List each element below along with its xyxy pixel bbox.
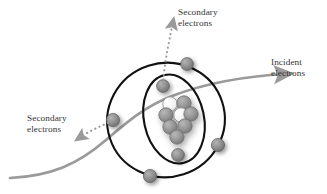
electron-outer-bottom <box>143 169 156 182</box>
nucleon <box>170 130 184 144</box>
label-secondary-electrons-left: Secondary electrons <box>27 113 67 135</box>
electron-outer-right <box>211 138 224 151</box>
electron-outer-top-right <box>181 58 194 71</box>
label-incident-electrons: Incident electrons <box>271 57 305 79</box>
label-line-1: Secondary <box>178 7 218 18</box>
label-line-1: Incident <box>271 57 305 68</box>
label-line-2: electrons <box>178 18 218 29</box>
electron-outer-left <box>106 113 119 126</box>
label-line-2: electrons <box>27 124 67 135</box>
electron-inner-top <box>157 80 170 93</box>
label-line-2: electrons <box>271 68 305 79</box>
electron-inner-bottom <box>172 149 185 162</box>
secondary-electron-arrow-left <box>79 123 108 138</box>
nucleus <box>159 96 198 144</box>
atom-diagram <box>0 0 327 194</box>
label-secondary-electrons-top: Secondary electrons <box>178 7 218 29</box>
figure-canvas: Secondary electrons Incident electrons S… <box>0 0 327 194</box>
label-line-1: Secondary <box>27 113 67 124</box>
